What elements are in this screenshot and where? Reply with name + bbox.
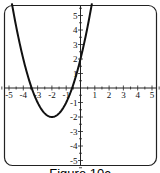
y-tick-label: 2 [73, 54, 78, 64]
x-tick-label: -4 [20, 90, 28, 100]
y-tick-label: 3 [73, 40, 78, 50]
x-tick-label: 3 [121, 90, 126, 100]
x-tick-label: 1 [93, 90, 98, 100]
x-tick-label: 5 [150, 90, 155, 100]
y-tick-label: -5 [70, 156, 78, 166]
x-tick-label: 4 [135, 90, 140, 100]
y-tick-label: 4 [73, 25, 78, 35]
figure-caption: Figure 10c [0, 167, 160, 173]
y-tick-label: -3 [70, 127, 78, 137]
x-tick-label: -2 [48, 90, 56, 100]
x-tick-label: 2 [107, 90, 112, 100]
y-tick-label: -1 [70, 98, 78, 108]
y-tick-label: -4 [70, 141, 78, 151]
graph-figure: -5-4-3-2-112345-5-4-3-2-112345 [0, 0, 160, 173]
y-tick-label: 5 [73, 11, 78, 21]
y-tick-label: -2 [70, 112, 78, 122]
x-tick-label: -5 [5, 90, 13, 100]
